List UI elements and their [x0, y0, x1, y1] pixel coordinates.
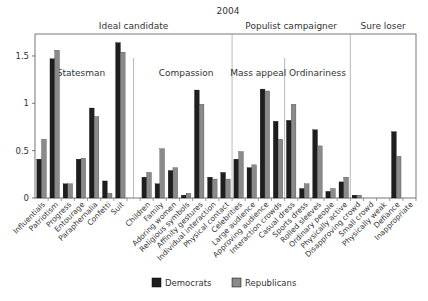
bar-republicans: [252, 165, 257, 198]
y-tick-label: 0.5: [15, 146, 29, 156]
bar-republicans: [160, 149, 165, 198]
legend-label-democrats: Democrats: [165, 278, 212, 288]
bar-republicans: [42, 139, 47, 198]
top-group-labels: Ideal candidatePopulist campaignerSure l…: [99, 21, 406, 31]
bar-republicans: [212, 179, 217, 198]
y-tick-label: 1.5: [15, 51, 29, 61]
bar-republicans: [81, 158, 86, 198]
bar-democrats: [234, 159, 239, 198]
chart-title: 2004: [217, 6, 240, 16]
bar-democrats: [63, 184, 68, 198]
bars: [37, 43, 401, 198]
bar-republicans: [120, 52, 125, 198]
bar-republicans: [173, 168, 178, 198]
bar-republicans: [344, 177, 349, 198]
bar-democrats: [300, 189, 305, 198]
bar-republicans: [239, 152, 244, 198]
bar-republicans: [107, 193, 112, 198]
legend-swatch-democrats: [152, 278, 161, 287]
bar-democrats: [155, 184, 160, 198]
sub-group-label: Statesman: [57, 68, 106, 78]
bar-republicans: [55, 50, 60, 198]
bar-democrats: [221, 172, 226, 198]
legend-label-republicans: Republicans: [245, 278, 297, 288]
bar-republicans: [396, 156, 401, 198]
bar-republicans: [357, 195, 362, 198]
bar-democrats: [37, 159, 42, 198]
bar-democrats: [313, 130, 318, 198]
bar-democrats: [260, 89, 265, 198]
y-tick-label: 0: [24, 193, 29, 203]
y-axis: 00.511.5: [15, 51, 35, 203]
x-axis: InfluentialsPatriotismProgressEntourageP…: [11, 198, 416, 263]
bar-democrats: [142, 177, 147, 198]
sub-group-labels: StatesmanCompassionMass appealOrdinarine…: [57, 68, 346, 78]
bar-republicans: [199, 104, 204, 198]
bar-democrats: [208, 177, 213, 198]
bar-democrats: [194, 90, 199, 198]
bar-democrats: [181, 195, 186, 198]
y-tick-label: 1: [24, 98, 29, 108]
bar-republicans: [94, 117, 99, 198]
x-tick-label: Suit: [109, 200, 126, 217]
bar-democrats: [273, 121, 278, 198]
bar-democrats: [103, 181, 108, 198]
bar-republicans: [331, 189, 336, 198]
top-group-label: Populist campaigner: [245, 21, 337, 31]
bar-republicans: [317, 146, 322, 198]
bar-democrats: [116, 43, 121, 198]
bar-democrats: [339, 182, 344, 198]
bar-democrats: [89, 108, 94, 198]
bar-democrats: [76, 159, 81, 198]
sub-group-label: Mass appeal: [230, 68, 286, 78]
bar-republicans: [68, 184, 73, 198]
sub-group-label: Compassion: [159, 68, 214, 78]
bar-republicans: [186, 193, 191, 198]
bar-chart: 2004 Ideal candidatePopulist campaignerS…: [0, 0, 428, 301]
bar-democrats: [352, 195, 357, 198]
bar-republicans: [226, 179, 231, 198]
legend: Democrats Republicans: [152, 278, 297, 288]
bar-republicans: [278, 139, 283, 198]
bar-democrats: [50, 59, 55, 198]
bar-democrats: [326, 191, 331, 198]
top-group-label: Ideal candidate: [99, 21, 169, 31]
bar-democrats: [247, 168, 252, 198]
bar-democrats: [168, 171, 173, 198]
legend-swatch-republicans: [232, 278, 241, 287]
bar-republicans: [291, 104, 296, 198]
bar-republicans: [304, 184, 309, 198]
bar-democrats: [392, 132, 397, 198]
top-group-label: Sure loser: [361, 21, 407, 31]
bar-republicans: [265, 91, 270, 198]
sub-group-label: Ordinariness: [289, 68, 346, 78]
bar-republicans: [147, 172, 152, 198]
bar-democrats: [286, 120, 291, 198]
